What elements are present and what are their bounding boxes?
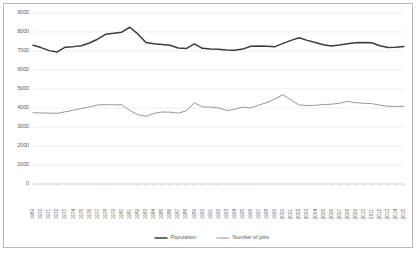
- x-axis-tick-label: 1985: [159, 209, 164, 220]
- x-axis-tick-label: 1992: [216, 209, 221, 220]
- chart-container: 0100020003000400050006000700080009000 19…: [3, 3, 413, 248]
- y-axis-tick-label: 2000: [17, 142, 29, 148]
- y-axis-tick-label: 0: [26, 180, 29, 186]
- y-axis-tick-label: 7000: [17, 47, 29, 53]
- x-axis-tick-label: 1976: [87, 209, 92, 220]
- x-axis-tick-label: 1973: [62, 209, 67, 220]
- y-axis-labels: 0100020003000400050006000700080009000: [17, 9, 29, 186]
- y-axis-tick-label: 4000: [17, 104, 29, 110]
- x-axis-tick-label: 1974: [71, 209, 76, 220]
- x-axis-tick-label: 2011: [369, 209, 374, 219]
- x-axis-tick-label: 1969: [30, 209, 35, 220]
- x-axis-tick-label: 2001: [288, 209, 293, 220]
- x-axis-labels: 1969197019711972197319741975197619771978…: [30, 184, 406, 219]
- y-axis-tick-label: 3000: [17, 123, 29, 129]
- legend-label-1: Population: [171, 234, 196, 240]
- x-axis-tick-label: 2010: [361, 209, 366, 220]
- x-axis-tick-label: 1999: [272, 209, 277, 220]
- x-axis-tick-label: 1987: [175, 209, 180, 220]
- y-axis-tick-label: 8000: [17, 28, 29, 34]
- y-axis-tick-label: 5000: [17, 85, 29, 91]
- x-axis-tick-label: 1986: [167, 209, 172, 220]
- x-axis-tick-label: 2012: [377, 209, 382, 220]
- x-axis-tick-label: 1982: [135, 209, 140, 220]
- series-line-2: [33, 95, 404, 117]
- x-axis-tick-label: 1981: [127, 209, 132, 220]
- x-axis-tick-label: 2015: [401, 209, 406, 220]
- x-axis-tick-label: 2005: [321, 209, 326, 220]
- x-axis-tick-label: 1993: [224, 209, 229, 220]
- x-axis-tick-label: 1971: [46, 209, 51, 220]
- x-axis-tick-label: 1998: [264, 209, 269, 220]
- x-axis-tick-label: 2014: [393, 209, 398, 220]
- data-series-group: [33, 27, 404, 116]
- x-axis-tick-label: 1991: [208, 209, 213, 220]
- x-axis-tick-label: 1972: [54, 209, 59, 220]
- x-axis-tick-label: 2003: [304, 209, 309, 220]
- y-axis-tick-label: 1000: [17, 161, 29, 167]
- x-axis-tick-label: 1984: [151, 209, 156, 220]
- y-axis-tick-label: 9000: [17, 9, 29, 15]
- x-axis-tick-label: 1994: [232, 209, 237, 220]
- x-axis-tick-label: 2004: [313, 209, 318, 220]
- x-axis-tick-label: 2006: [329, 209, 334, 220]
- x-axis-tick-label: 1978: [103, 209, 108, 220]
- x-axis-tick-label: 1983: [143, 209, 148, 220]
- x-axis-tick-label: 1990: [200, 209, 205, 220]
- x-axis-tick-label: 2013: [385, 209, 390, 220]
- x-axis-tick-label: 1989: [192, 209, 197, 220]
- x-axis-tick-label: 1979: [111, 209, 116, 220]
- x-axis-tick-label: 1975: [79, 209, 84, 220]
- x-axis-tick-label: 2000: [280, 209, 285, 220]
- y-axis-tick-label: 6000: [17, 66, 29, 72]
- x-axis-tick-label: 2002: [296, 209, 301, 220]
- series-line-1: [33, 27, 404, 52]
- x-axis-tick-label: 2008: [345, 209, 350, 220]
- line-chart: 0100020003000400050006000700080009000 19…: [4, 4, 412, 247]
- x-axis-tick-label: 1977: [95, 209, 100, 220]
- x-axis-tick-label: 1995: [240, 209, 245, 220]
- x-axis-tick-label: 1997: [256, 209, 261, 220]
- x-axis-tick-label: 1996: [248, 209, 253, 220]
- gridlines-group: [33, 13, 404, 184]
- x-axis-tick-label: 1980: [119, 209, 124, 220]
- chart-legend: PopulationNumber of jobs: [155, 234, 270, 240]
- x-axis-tick-label: 2007: [337, 209, 342, 220]
- legend-label-2: Number of jobs: [233, 234, 270, 240]
- x-axis-tick-label: 1970: [38, 209, 43, 220]
- x-axis-tick-label: 1988: [183, 209, 188, 220]
- x-axis-tick-label: 2009: [353, 209, 358, 220]
